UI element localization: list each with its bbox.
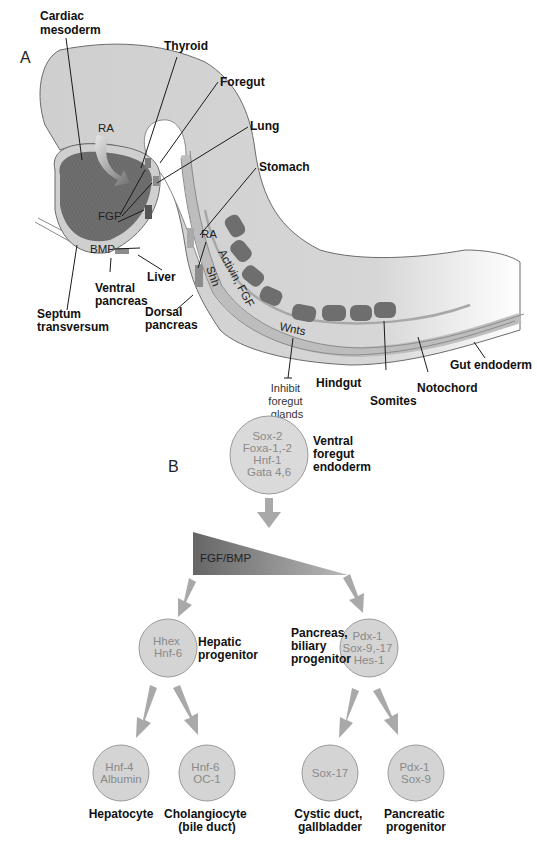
arrow-root-down: [257, 498, 281, 528]
panel-b-label: B: [168, 458, 179, 475]
node-hepatocyte: Hnf-4 Albumin Hepatocyte: [89, 745, 154, 821]
svg-text:Cholangiocyte (bile du: Cholangiocyte (bile duct): [164, 807, 250, 834]
node-pancreas-biliary: Pdx-1 Sox-9,-17 Hes-1 Pancreas, biliary …: [291, 619, 398, 677]
arrow-to-cystic: [339, 688, 359, 738]
svg-text:Hhex Hnf-6: Hhex Hnf-6: [153, 635, 183, 659]
arrow-to-hepatocyte: [136, 685, 157, 738]
label-foregut: Foregut: [220, 75, 265, 89]
arrow-to-cholangiocyte: [173, 685, 198, 735]
node-root-name: Ventral foregut endoderm: [313, 434, 371, 474]
arrow-to-pancreatic: [373, 688, 398, 735]
svg-text:Hnf-6 OC-1: Hnf-6 OC-1: [191, 761, 222, 785]
label-liver: Liver: [147, 270, 176, 284]
label-thyroid: Thyroid: [164, 39, 208, 53]
signal-ra-top: RA: [98, 122, 114, 134]
panel-b: B FGF/BMP Sox-2 Foxa-1,-2 Hnf-1 Gata 4,6: [89, 416, 448, 834]
node-pancreatic: Pdx-1 Sox-9 Pancreatic progenitor: [384, 745, 448, 834]
label-notochord: Notochord: [417, 381, 478, 395]
arrow-to-hepatic: [178, 578, 196, 617]
node-hepatic: Hhex Hnf-6 Hepatic progenitor: [139, 619, 258, 677]
dorsal-pancreas-domain: [195, 265, 203, 287]
label-septum-transversum: Septum transversum: [37, 307, 109, 334]
stomach-domain: [187, 228, 194, 248]
label-dorsal-pancreas: Dorsal pancreas: [145, 305, 198, 332]
liver-domain: [145, 205, 152, 219]
wnt-effect-note: Inhibit foregut glands: [268, 382, 305, 420]
node-cystic: Sox-17 Cystic duct, gallbladder: [294, 745, 365, 834]
node-cholangiocyte: Hnf-6 OC-1 Cholangiocyte (bile duct): [164, 745, 250, 834]
label-stomach: Stomach: [259, 160, 310, 174]
label-cardiac-mesoderm: Cardiac mesoderm: [40, 9, 101, 37]
label-ventral-pancreas: Ventral pancreas: [95, 281, 148, 308]
label-gut-endoderm: Gut endoderm: [450, 358, 532, 372]
svg-text:Cystic duct, gallbladd: Cystic duct, gallbladder: [294, 807, 365, 834]
signal-fgf: FGF: [98, 210, 121, 222]
node-root: Sox-2 Foxa-1,-2 Hnf-1 Gata 4,6 Ventral f…: [230, 416, 371, 494]
svg-text:Sox-17: Sox-17: [312, 767, 348, 779]
embryo-development-diagram: A: [0, 0, 537, 842]
signal-ra-dorsal: RA: [201, 228, 217, 240]
svg-text:Hepatic progenitor: Hepatic progenitor: [198, 635, 258, 662]
label-hindgut: Hindgut: [316, 376, 361, 390]
label-somites: Somites: [370, 394, 417, 408]
lineage-arrows: [136, 498, 398, 738]
signal-bmp: BMP: [90, 243, 115, 255]
panel-a: A: [20, 9, 532, 420]
svg-text:Pdx-1 Sox-9: Pdx-1 Sox-9: [399, 761, 432, 785]
svg-text:Hnf-4 Albumin: Hnf-4 Albumin: [100, 761, 142, 785]
label-lung: Lung: [250, 119, 279, 133]
thyroid-domain: [145, 158, 151, 168]
panel-a-label: A: [20, 49, 31, 66]
arrow-to-pancreas-biliary: [343, 574, 364, 613]
gradient-label: FGF/BMP: [200, 552, 251, 564]
lung-domain: [153, 176, 159, 186]
svg-text:Pancreatic progenitor: Pancreatic progenitor: [384, 807, 448, 834]
svg-text:Hepatocyte: Hepatocyte: [89, 807, 154, 821]
